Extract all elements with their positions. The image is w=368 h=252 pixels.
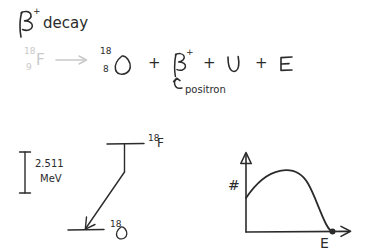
parent-element-symbol: F <box>36 51 45 69</box>
page-title: + decay <box>20 6 88 37</box>
notebook-page: + decay 18 9 F 18 8 + <box>0 0 368 252</box>
positron-charge-superscript: + <box>186 47 194 57</box>
spectrum-endpoint-marker <box>330 229 336 235</box>
daughter-mass-number: 18 <box>100 46 112 56</box>
equation-positron-term: + <box>175 47 194 77</box>
title-beta-superscript: + <box>33 6 41 16</box>
equation-parent-nuclide: 18 9 F <box>24 46 45 72</box>
equation-plus-1: + <box>148 54 161 72</box>
equation-energy-term <box>281 57 292 70</box>
title-beta-glyph <box>20 11 32 37</box>
decay-equation: 18 9 F 18 8 + + + <box>24 46 292 95</box>
energy-level-diagram: 2.511 MeV 18 F 18 <box>20 133 165 239</box>
positron-annotation-label: positron <box>185 84 226 95</box>
positron-annotation: positron <box>174 78 226 95</box>
equation-neutrino-term <box>228 57 239 72</box>
equation-plus-2: + <box>203 54 216 72</box>
upper-level-element: F <box>157 136 164 150</box>
spectrum-x-axis-label: E <box>320 235 329 251</box>
parent-mass-number: 18 <box>24 46 36 56</box>
hook-arrow-up-icon <box>174 78 182 88</box>
spectrum-curve <box>246 170 333 231</box>
energy-gap-value: 2.511 <box>35 158 64 169</box>
lower-energy-level: 18 <box>68 219 127 239</box>
equation-daughter-nuclide: 18 8 <box>100 46 130 74</box>
upper-energy-level: 18 F <box>107 133 164 150</box>
spectrum-y-axis-label: # <box>228 177 240 193</box>
reaction-arrow-icon <box>56 56 87 64</box>
equation-plus-3: + <box>255 54 268 72</box>
beta-spectrum-plot: # E <box>228 153 351 252</box>
energy-gap-unit: MeV <box>40 173 62 184</box>
daughter-atomic-number: 8 <box>103 64 109 74</box>
decay-transition-arrow <box>85 144 124 229</box>
title-word: decay <box>43 14 88 32</box>
energy-gap-bracket-icon <box>20 152 31 193</box>
parent-atomic-number: 9 <box>26 62 32 72</box>
